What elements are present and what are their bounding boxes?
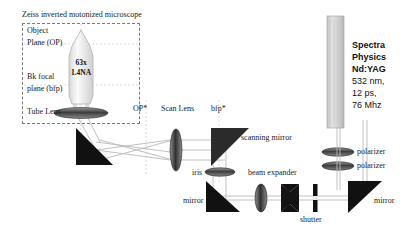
laser-rep-rate: 76 Mhz [352, 100, 382, 111]
optical-setup-diagram: Zeiss inverted motonized microscope Obje… [0, 0, 408, 233]
label-polarizer-top: polarizer [357, 147, 385, 157]
label-mirror-right: mirror [374, 196, 394, 206]
label-object-plane-line1: Object [27, 26, 48, 36]
iris [205, 168, 235, 176]
label-tube-lens: Tube Lens [27, 107, 61, 117]
label-scan-lens: Scan Lens [161, 104, 194, 114]
fold-mirror-left [76, 128, 113, 165]
laser-wavelength: 532 nm, [352, 76, 385, 87]
label-bfp-conjugate: bfp* [211, 104, 226, 114]
label-mirror-left: mirror [183, 196, 203, 206]
label-back-focal-plane-line2: plane (bfp) [27, 84, 62, 94]
laser-brand-line2: Physics [352, 52, 386, 63]
polarizer-top [322, 148, 354, 156]
objective-magnification-label: 63x [67, 58, 95, 67]
label-beam-expander: beam expander [248, 168, 297, 178]
laser-head [327, 16, 344, 128]
label-object-plane-line2: Plane (OP) [27, 38, 62, 48]
objective-na-label: 1.4NA [64, 68, 98, 77]
label-scanning-mirror: scanning mirror [241, 133, 292, 143]
laser-pulse-width: 12 ps, [352, 88, 377, 99]
label-iris: iris [192, 168, 202, 178]
label-shutter: shutter [300, 215, 322, 225]
label-back-focal-plane-line1: Bk focal [27, 72, 54, 82]
laser-brand-line1: Spectra [352, 40, 385, 51]
scan-lens [170, 129, 182, 171]
beam-expander [255, 184, 299, 212]
fold-mirror-lower-left [206, 181, 240, 212]
polarizer-bottom [322, 162, 354, 170]
figure-title: Zeiss inverted motonized microscope [22, 10, 142, 20]
label-op-conjugate: OP* [133, 104, 147, 114]
label-polarizer-bottom: polarizer [357, 161, 385, 171]
shutter [313, 184, 318, 212]
laser-medium: Nd:YAG [352, 64, 386, 75]
